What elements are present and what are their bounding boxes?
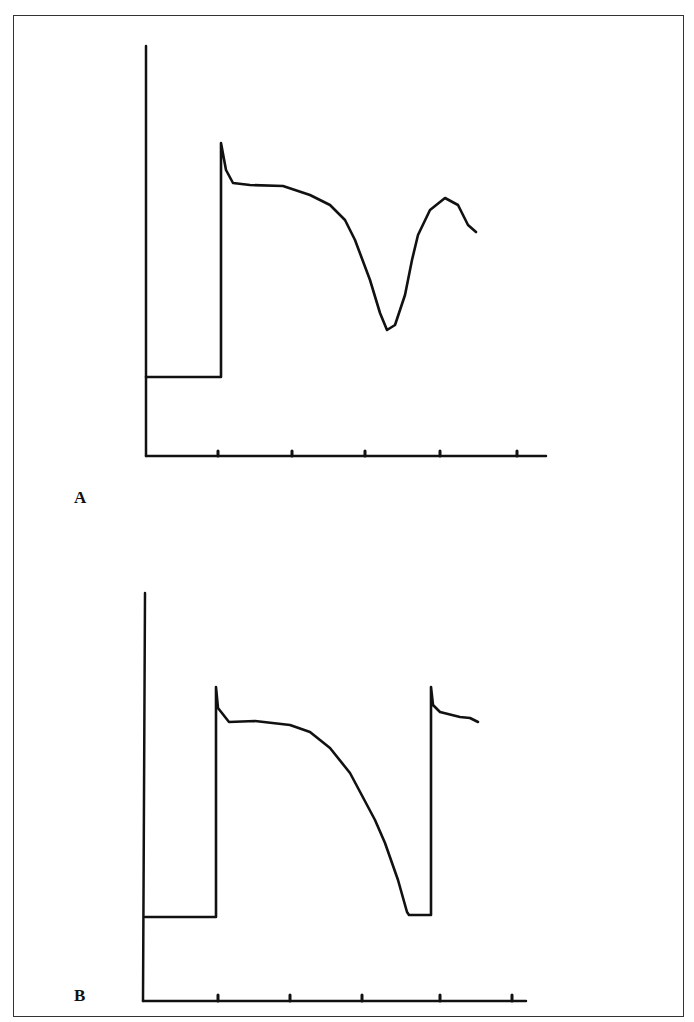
panel-a-trace (146, 143, 476, 377)
panel-b-y-axis (143, 593, 145, 1001)
panel-b (143, 593, 526, 1001)
panel-a-label: A (74, 488, 86, 508)
figure-svg (0, 0, 694, 1022)
panel-b-trace (145, 687, 478, 917)
panel-b-label: B (74, 986, 85, 1006)
panel-a (146, 46, 546, 456)
